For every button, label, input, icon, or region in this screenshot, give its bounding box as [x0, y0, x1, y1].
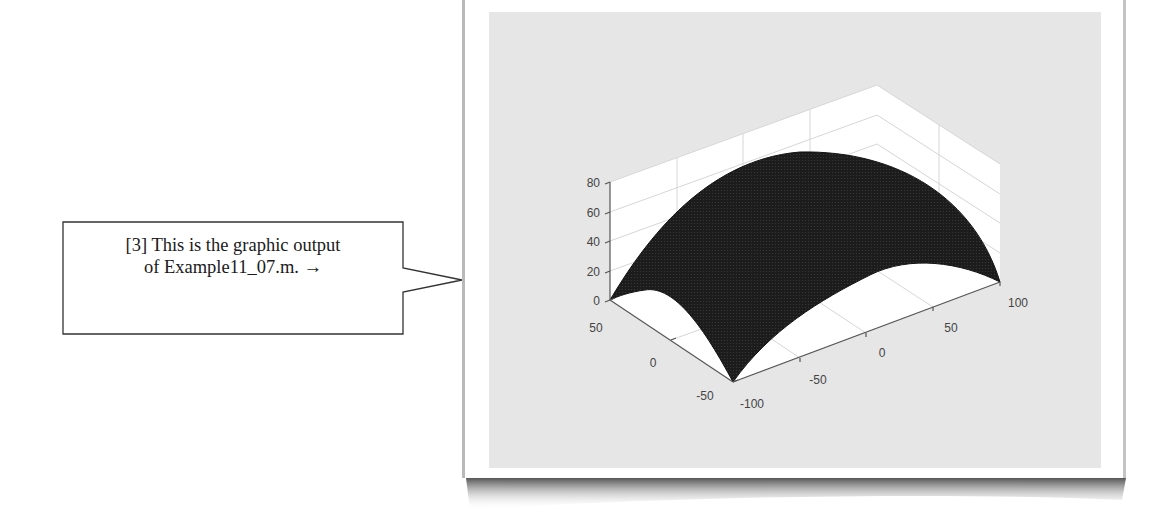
- callout-line-2: of Example11_07.m. →: [63, 256, 403, 278]
- callout-line-1: [3] This is the graphic output: [63, 234, 403, 256]
- svg-text:40: 40: [587, 235, 601, 249]
- svg-text:60: 60: [587, 206, 601, 220]
- svg-text:0: 0: [593, 294, 600, 308]
- svg-text:-50: -50: [809, 373, 827, 387]
- svg-text:-100: -100: [740, 397, 764, 411]
- svg-text:50: 50: [944, 321, 958, 335]
- matlab-figure: 0 20 40 60 80 50 0 -50 -100 -50 0 50 100: [489, 12, 1101, 468]
- surface-plot: 0 20 40 60 80 50 0 -50 -100 -50 0 50 100: [489, 12, 1101, 468]
- svg-text:0: 0: [879, 346, 886, 360]
- svg-text:80: 80: [587, 176, 601, 190]
- svg-text:20: 20: [587, 265, 601, 279]
- callout-label: [3] This is the graphic output of Exampl…: [63, 234, 403, 278]
- svg-text:-50: -50: [696, 389, 714, 403]
- frame-shadow: [466, 478, 1126, 518]
- svg-text:0: 0: [650, 356, 657, 370]
- svg-text:50: 50: [589, 321, 603, 335]
- svg-text:100: 100: [1008, 296, 1028, 310]
- z-tick-labels: 0 20 40 60 80: [587, 176, 601, 308]
